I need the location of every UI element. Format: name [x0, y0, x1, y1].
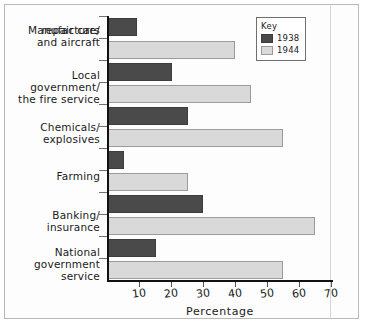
y-tick — [99, 148, 107, 149]
category-label-banking: Banking/ insurance — [8, 209, 100, 233]
category-label-local-government: Local government/ the fire service — [8, 69, 100, 105]
bar-1938-chemicals — [108, 107, 188, 125]
category-label-chemicals: Chemicals/ explosives — [8, 121, 100, 145]
bar-1938-banking — [108, 195, 203, 213]
legend-entry-1938: 1938 — [261, 33, 301, 43]
y-tick — [99, 16, 107, 17]
y-tick — [99, 82, 107, 83]
bar-1938-manufacture — [108, 18, 137, 36]
legend-label-1944: 1944 — [277, 45, 299, 55]
y-tick — [99, 170, 107, 171]
bar-1944-national-government — [108, 261, 283, 279]
x-tick-label-30: 30 — [187, 285, 218, 302]
y-tick — [99, 214, 107, 215]
x-tick-label-40: 40 — [219, 285, 250, 302]
x-axis-title: Percentage — [107, 305, 333, 318]
y-tick — [99, 192, 107, 193]
legend-title: Key — [261, 21, 301, 31]
bar-1944-local-government — [108, 85, 251, 103]
bar-1944-manufacture — [108, 41, 235, 59]
y-tick — [99, 258, 107, 259]
bar-chart-plot: Manufacture/ repair cars and aircraft Lo… — [0, 0, 368, 329]
bar-1944-banking — [108, 217, 315, 235]
legend-label-1938: 1938 — [277, 33, 299, 43]
y-axis-line — [107, 16, 109, 282]
bar-1938-national-government — [108, 239, 156, 257]
x-tick-label-60: 60 — [283, 285, 314, 302]
legend-swatch-1938-icon — [261, 34, 273, 43]
bar-1938-farming — [108, 151, 124, 169]
legend-entry-1944: 1944 — [261, 45, 301, 55]
chart-screenshot: Manufacture/ repair cars and aircraft Lo… — [0, 0, 368, 329]
y-tick — [99, 60, 107, 61]
category-label-farming: Farming — [8, 170, 100, 182]
legend-swatch-1944-icon — [261, 46, 273, 55]
category-label-national-government: National government service — [8, 246, 100, 282]
y-tick — [99, 38, 107, 39]
x-tick-label-10: 10 — [123, 285, 154, 302]
y-tick — [99, 104, 107, 105]
category-label-manufacture: Manufacture/ repair cars and aircraft — [8, 24, 100, 48]
bar-1944-chemicals — [108, 129, 283, 147]
legend: Key 1938 1944 — [256, 17, 306, 61]
x-tick-label-70: 70 — [315, 285, 346, 302]
bar-1938-local-government — [108, 63, 172, 81]
x-tick-label-20: 20 — [155, 285, 186, 302]
bar-1944-farming — [108, 173, 188, 191]
y-tick — [99, 126, 107, 127]
x-tick-label-50: 50 — [251, 285, 282, 302]
y-tick — [99, 236, 107, 237]
